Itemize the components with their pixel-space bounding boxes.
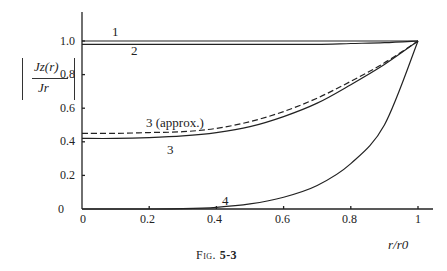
curve-label-3-approx: 3 (approx.): [146, 115, 204, 131]
y-tick-0.8: 0.8: [60, 67, 75, 82]
y-tick-0.2: 0.2: [60, 168, 75, 183]
curve-4: [82, 41, 418, 209]
y-tick-0.4: 0.4: [60, 134, 75, 149]
x-tick-0.8: 0.8: [342, 212, 357, 227]
x-axis-label: r/r0: [388, 237, 408, 253]
curve-label-2: 2: [131, 43, 138, 59]
curve-label-4: 4: [222, 193, 229, 209]
y-label-numerator: Jz(r): [34, 59, 59, 75]
figure-caption: Fig. 5-3: [196, 248, 237, 263]
x-tick-0.4: 0.4: [207, 212, 222, 227]
y-label-denominator: Jr: [38, 80, 49, 96]
abs-bar-left: [22, 58, 23, 100]
curve-label-1: 1: [112, 24, 119, 40]
curve-label-3: 3: [167, 142, 174, 158]
y-tick-0: 0: [58, 202, 64, 217]
x-tick-0.2: 0.2: [140, 212, 155, 227]
x-tick-0.6: 0.6: [275, 212, 290, 227]
y-tick-0.6: 0.6: [60, 101, 75, 116]
y-tick-1.0: 1.0: [60, 34, 75, 49]
x-tick-1: 1: [415, 212, 421, 227]
x-tick-0: 0: [80, 212, 86, 227]
